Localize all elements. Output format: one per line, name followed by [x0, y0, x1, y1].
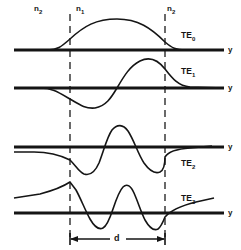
waveguide-mode-figure: n2 n1 n2 TE0 TE1 TE2 TE3 y y y y d [0, 0, 241, 250]
thickness-label-d: d [114, 233, 120, 243]
mode-label-te0-sub: 0 [192, 36, 195, 42]
te3-panel [14, 182, 224, 230]
mode-diagram-svg [0, 0, 241, 250]
mode-label-te1-sub: 1 [192, 72, 195, 78]
mode-label-te3-text: TE [181, 193, 192, 203]
dim-arrowhead-left [70, 236, 78, 242]
mode-label-te3-sub: 3 [192, 199, 195, 205]
axis-label-y-te0: y [228, 45, 232, 54]
region-label-n2-right-sub: 2 [172, 9, 175, 15]
mode-label-te0-text: TE [181, 30, 192, 40]
mode-label-te0: TE0 [181, 30, 195, 42]
region-label-n2-right: n2 [167, 4, 175, 15]
region-label-n1-core: n1 [76, 4, 84, 15]
te3-field-curve [14, 182, 214, 230]
mode-label-te2-text: TE [181, 158, 192, 168]
mode-label-te1-text: TE [181, 66, 192, 76]
mode-label-te3: TE3 [181, 193, 195, 205]
mode-label-te1: TE1 [181, 66, 195, 78]
region-label-n2-left-sub: 2 [39, 9, 42, 15]
mode-label-te2: TE2 [181, 158, 195, 170]
axis-label-y-te2: y [228, 142, 232, 151]
mode-label-te2-sub: 2 [192, 164, 195, 170]
dim-arrowhead-right [157, 236, 165, 242]
axis-label-y-te1: y [228, 83, 232, 92]
axis-label-y-te3: y [228, 208, 232, 217]
region-label-n1-core-sub: 1 [81, 9, 84, 15]
region-label-n2-left: n2 [34, 4, 42, 15]
